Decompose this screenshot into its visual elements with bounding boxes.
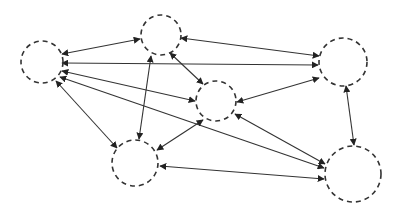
node-d [196,81,236,121]
edge-a-b [62,39,140,54]
node-e [112,140,158,186]
edge-d-e [157,120,203,150]
edge-b-c [181,38,319,56]
node-c [319,38,367,86]
node-b [141,15,181,55]
edge-d-f [235,114,325,164]
edge-a-c [62,63,318,65]
edge-d-c [237,78,319,102]
edge-e-f [160,166,324,179]
edge-a-e [56,81,117,148]
edge-a-d [62,71,195,101]
edge-b-e [139,56,151,139]
node-f [325,146,381,202]
node-a [21,41,63,83]
edge-a-f [60,77,324,168]
nodes-layer [21,15,381,202]
edge-c-f [346,86,354,145]
edges-layer [56,38,354,179]
network-diagram [0,0,401,212]
edge-b-d [170,53,203,84]
